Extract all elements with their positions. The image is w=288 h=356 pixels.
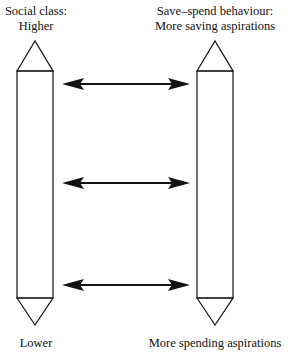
left-pillar	[17, 41, 53, 325]
arrow-middle	[62, 177, 190, 189]
right-pillar	[197, 41, 233, 325]
arrow-top	[62, 78, 190, 90]
arrow-bottom	[62, 279, 190, 291]
diagram-canvas	[0, 0, 288, 356]
